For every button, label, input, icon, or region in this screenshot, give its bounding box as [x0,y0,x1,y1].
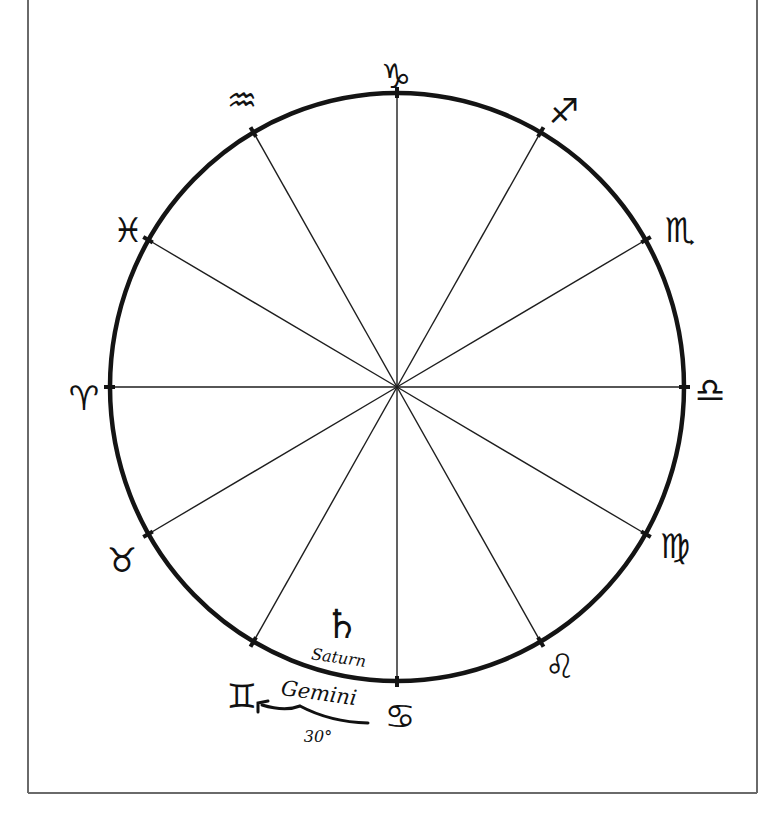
spoke-sagittarius [397,132,541,387]
leo-icon: ♌ [545,646,575,686]
cancer-icon: ♋ [385,696,415,736]
aries-icon: ♈ [69,378,99,418]
gemini-icon: ♊ [227,676,257,716]
gemini-label: Gemini [280,676,359,710]
spoke-scorpio [397,240,646,387]
saturn-label: Saturn [310,644,367,670]
wheel-spokes [110,93,684,681]
spoke-virgo [397,387,646,534]
spoke-pisces [148,240,397,387]
libra-icon: ♎ [695,370,725,410]
spoke-leo [397,387,541,642]
spoke-aquarius [254,132,398,387]
arc-degree-label: 30° [304,727,332,746]
zodiac-diagram: ♑♐♏♎♍♌♋♊♉♈♓♒ ♄ Saturn Gemini 30° [0,0,781,819]
virgo-icon: ♍ [660,526,690,566]
scorpio-icon: ♏ [665,210,695,250]
page-frame [28,0,757,793]
taurus-icon: ♉ [107,540,137,580]
pisces-icon: ♓ [113,210,143,250]
aquarius-icon: ♒ [227,80,257,120]
sagittarius-icon: ♐ [549,91,579,131]
saturn-icon: ♄ [324,601,360,647]
capricorn-icon: ♑ [381,56,411,96]
gemini-annotation: Gemini 30° [258,676,368,746]
spoke-taurus [148,387,397,534]
saturn-marker: ♄ Saturn [310,601,367,671]
